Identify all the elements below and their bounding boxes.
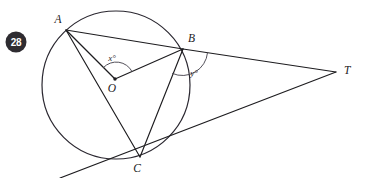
geometry-diagram: 28 A B C O T x° y°: [0, 0, 369, 178]
center-point-dot: [113, 77, 116, 80]
tangent-line-through-C: [60, 72, 336, 178]
angle-arc-x: [104, 62, 133, 72]
point-label-A: A: [53, 13, 62, 25]
problem-number-badge: 28: [6, 32, 27, 53]
point-label-C: C: [133, 162, 141, 174]
point-label-T: T: [344, 64, 352, 76]
angle-label-x: x°: [107, 53, 116, 63]
angle-label-y: y°: [189, 68, 198, 78]
geometry-figure-canvas: 28 A B C O T x° y°: [0, 0, 369, 178]
point-label-O: O: [108, 82, 117, 94]
segment-AB: [66, 30, 183, 49]
segment-AC: [66, 30, 140, 157]
badge-number-label: 28: [11, 37, 22, 48]
point-label-B: B: [188, 32, 195, 44]
